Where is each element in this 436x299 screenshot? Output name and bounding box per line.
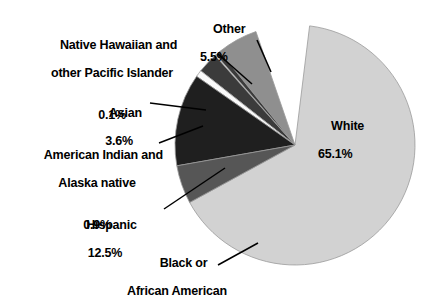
slice-label-other: Other 5.5% [200, 8, 270, 92]
slice-label-american-indian-line2: Alaska native [8, 176, 186, 190]
slice-label-black-line2: African American [104, 284, 250, 298]
slice-value-other: 5.5% [200, 50, 270, 64]
slice-label-white-text: White [331, 119, 364, 133]
slice-value-white: 65.1% [318, 147, 404, 161]
slice-label-white: White 65.1% [318, 105, 404, 189]
slice-label-black-african-american: Black or African American [104, 242, 250, 299]
slice-label-hispanic-text: Hispanic [86, 218, 137, 232]
slice-label-native-hawaiian-line1: Native Hawaiian and [60, 38, 177, 52]
slice-label-american-indian-line1: American Indian and [44, 148, 163, 162]
slice-label-black-line1: Black or [160, 256, 208, 270]
slice-label-other-text: Other [213, 22, 245, 36]
slice-label-asian-text: Asian [109, 106, 142, 120]
slice-label-native-hawaiian-line2: other Pacific Islander [16, 66, 208, 80]
